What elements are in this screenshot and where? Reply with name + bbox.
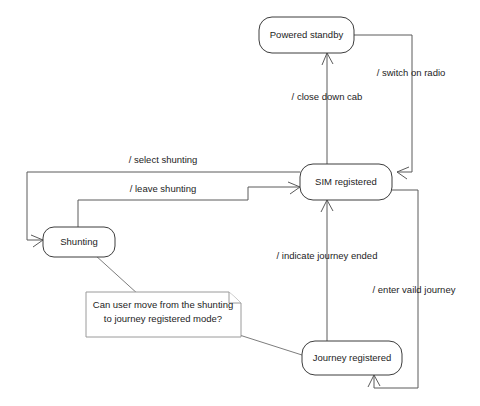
edge-label-switch-on-radio: / switch on radio [377,67,446,78]
transition-indicate-journey-ended [321,200,333,345]
state-label-sim-registered: SIM registered [315,176,377,187]
note-line-2: to journey registered mode? [104,313,222,324]
transition-switch-on-radio [354,35,412,179]
diagram-svg: Can user move from the shunting to journ… [0,0,480,406]
state-label-powered-standby: Powered standby [270,29,344,40]
edge-label-close-down-cab: / close down cab [292,91,363,102]
edge-label-enter-vaild-journey: / enter vaild journey [373,284,456,295]
state-diagram-canvas: Can user move from the shunting to journ… [0,0,480,406]
edge-label-select-shunting: / select shunting [129,154,198,165]
edge-label-indicate-journey-ended: / indicate journey ended [277,250,378,261]
edge-label-leave-shunting: / leave shunting [130,183,197,194]
note-line-1: Can user move from the shunting [93,299,233,310]
state-label-journey-registered: Journey registered [313,352,392,363]
state-node-sim-registered[interactable]: SIM registered [300,164,392,200]
transition-close-down-cab [322,53,333,166]
state-node-powered-standby[interactable]: Powered standby [259,17,354,53]
note-shunting-question: Can user move from the shunting to journ… [86,292,241,337]
state-label-shunting: Shunting [60,236,98,247]
state-node-journey-registered[interactable]: Journey registered [302,341,402,375]
note-connector-shunting [95,255,139,295]
state-node-shunting[interactable]: Shunting [43,227,115,257]
